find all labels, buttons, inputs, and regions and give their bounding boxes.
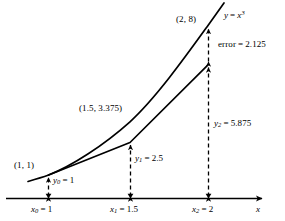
curve-equation-label: y=x3: [224, 10, 245, 20]
x0-value: 1: [48, 204, 53, 214]
y0-subscript: 0: [57, 178, 60, 185]
figure-canvas: (1, 1) (1.5, 3.375) (2, 8) y=x3 error=2.…: [0, 0, 285, 221]
y1-equals: =: [144, 153, 149, 163]
x1-axis-label: x1=1.5: [110, 205, 138, 215]
x1-subscript: 1: [114, 207, 117, 214]
y1-label: y1=2.5: [135, 154, 163, 164]
y1-value: 2.5: [152, 153, 164, 163]
error-label-text: error: [218, 39, 236, 49]
x2-equals: =: [201, 204, 206, 214]
point-label-p1: (1.5, 3.375): [79, 104, 122, 113]
y2-label: y2=5.875: [214, 119, 251, 129]
y1-subscript: 1: [139, 156, 142, 163]
y2-equals: =: [223, 118, 228, 128]
x0-subscript: 0: [35, 207, 38, 214]
diagram-svg: [0, 0, 285, 221]
y0-label: y0=1: [53, 176, 74, 186]
x2-axis-label: x2=2: [192, 205, 213, 215]
error-label: error=2.125: [218, 40, 266, 49]
x1-value: 1.5: [127, 204, 139, 214]
y0-equals: =: [62, 175, 67, 185]
chord-approximation: [48, 65, 208, 175]
curve-eq-equals: =: [230, 10, 235, 20]
y2-subscript: 2: [218, 121, 221, 128]
x-axis-name-label: x: [256, 205, 260, 214]
x0-equals: =: [40, 204, 45, 214]
x0-axis-label: x0=1: [31, 205, 52, 215]
x-axis-symbol: x: [256, 204, 260, 214]
point-label-p2: (2, 8): [176, 15, 196, 24]
error-label-equals: =: [238, 39, 243, 49]
error-label-value: 2.125: [245, 39, 266, 49]
x2-value: 2: [209, 204, 214, 214]
x2-subscript: 2: [196, 207, 199, 214]
cubic-curve: [28, 3, 224, 182]
y0-value: 1: [70, 175, 75, 185]
point-label-p0: (1, 1): [14, 161, 34, 170]
curve-eq-y: y: [224, 10, 228, 20]
x1-equals: =: [119, 204, 124, 214]
y2-value: 5.875: [231, 118, 252, 128]
curve-eq-exponent: 3: [241, 9, 244, 16]
